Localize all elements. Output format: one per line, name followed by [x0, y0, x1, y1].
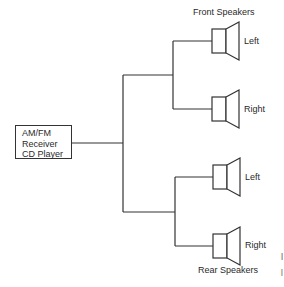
speaker-front-left-icon — [212, 22, 239, 60]
receiver-box: AM/FM Receiver CD Player — [15, 125, 72, 159]
speaker-rear-right-icon — [213, 227, 240, 265]
rear-speakers-label: Rear Speakers — [198, 265, 258, 276]
speaker-front-right-icon — [212, 90, 239, 128]
receiver-line-2: Receiver — [22, 139, 71, 150]
front-left-label: Left — [244, 36, 259, 47]
front-right-label: Right — [244, 104, 265, 115]
rear-right-label: Right — [245, 240, 266, 251]
front-speakers-label: Front Speakers — [193, 7, 255, 18]
edge-mark-1: | — [281, 250, 283, 261]
receiver-line-3: CD Player — [22, 149, 71, 160]
receiver-line-1: AM/FM — [22, 128, 71, 139]
speaker-rear-left-icon — [213, 158, 240, 196]
rear-left-label: Left — [245, 172, 260, 183]
edge-mark-2: | — [281, 266, 283, 277]
